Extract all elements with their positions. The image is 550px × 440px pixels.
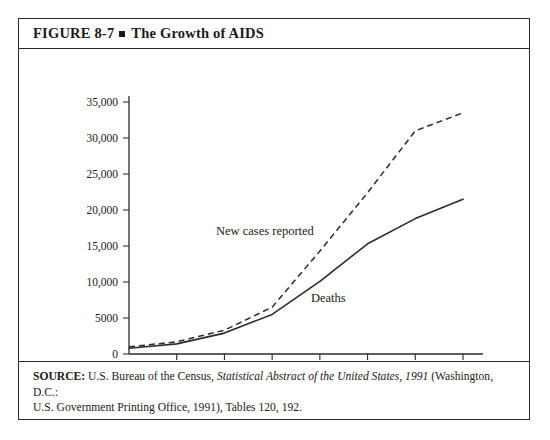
figure-number: FIGURE 8-7: [33, 25, 114, 41]
y-tick-label: 35,000: [86, 96, 118, 109]
y-tick-label: 25,000: [86, 168, 118, 181]
aids-growth-line-chart: 0500010,00015,00020,00025,00030,00035,00…: [19, 49, 531, 361]
source-line2: U.S. Government Printing Office, 1991), …: [33, 401, 302, 414]
y-tick-label: 15,000: [86, 240, 118, 253]
annotation-new-cases: New cases reported: [216, 224, 315, 238]
series-line-deaths: [129, 199, 463, 348]
source-note: SOURCE: U.S. Bureau of the Census, Stati…: [33, 369, 515, 416]
y-tick-label: 10,000: [86, 276, 118, 289]
figure-box: FIGURE 8-7The Growth of AIDS 0500010,000…: [18, 18, 530, 420]
figure-title-bar: FIGURE 8-7The Growth of AIDS: [19, 19, 529, 49]
page-title: FIGURE 8-7The Growth of AIDS: [19, 25, 264, 42]
y-tick-label: 20,000: [86, 204, 118, 217]
source-note-bar: SOURCE: U.S. Bureau of the Census, Stati…: [19, 361, 529, 419]
square-bullet-icon: [119, 31, 125, 37]
source-label: SOURCE:: [33, 370, 85, 383]
figure-title-text: The Growth of AIDS: [131, 25, 264, 41]
y-tick-label: 5000: [95, 312, 118, 324]
chart-plot-area: 0500010,00015,00020,00025,00030,00035,00…: [19, 49, 529, 361]
y-tick-label: 30,000: [86, 132, 118, 145]
source-italic-title: Statistical Abstract of the United State…: [217, 370, 428, 383]
source-part1: U.S. Bureau of the Census,: [85, 370, 217, 383]
annotation-deaths: Deaths: [311, 291, 346, 305]
y-tick-label: 0: [112, 348, 118, 360]
